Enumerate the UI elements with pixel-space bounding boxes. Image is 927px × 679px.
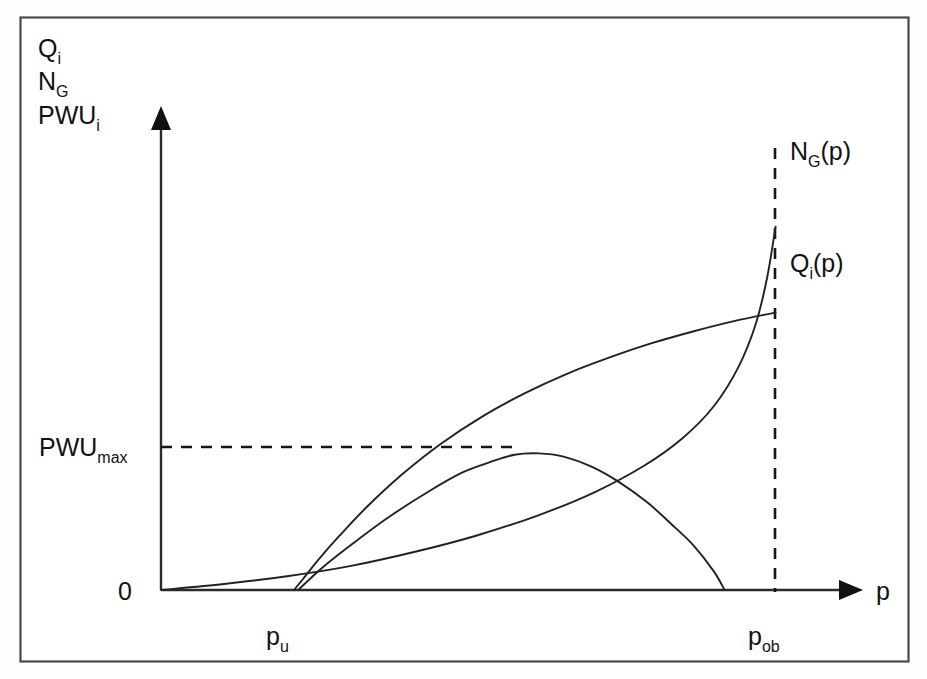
x-axis-label: p bbox=[876, 577, 890, 605]
figure-border bbox=[21, 18, 909, 662]
origin-label: 0 bbox=[118, 577, 132, 605]
figure-container: Qi NG PWUi 0 bbox=[0, 0, 927, 679]
diagram-canvas: Qi NG PWUi 0 bbox=[0, 0, 927, 679]
